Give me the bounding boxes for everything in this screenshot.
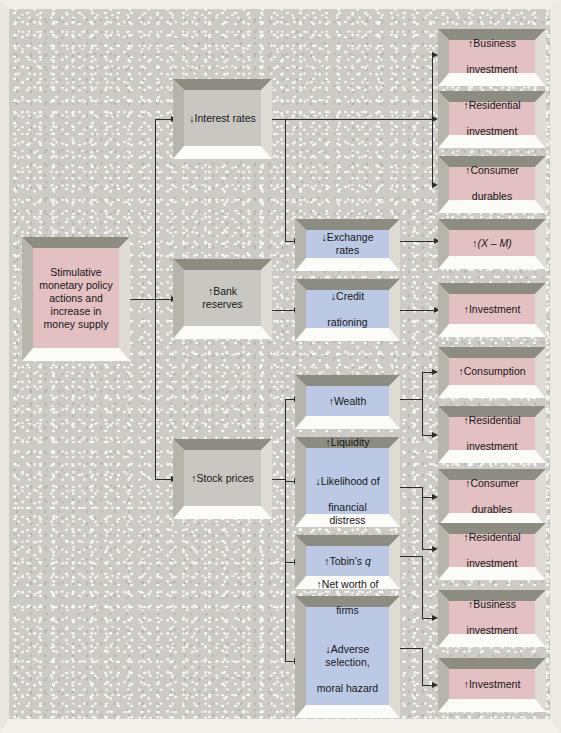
box-residential-investment-3-label: ↑Residential investment (452, 531, 532, 570)
flowchart-canvas: Stimulative monetary policy actions and … (0, 0, 561, 733)
line-2: investment (452, 63, 532, 76)
box-net-worth[interactable]: ↑Net worth of firms ↓Adverse selection, … (295, 596, 400, 718)
line-2: durables (452, 190, 532, 203)
box-investment-1[interactable]: ↑Investment (438, 283, 546, 337)
box-consumer-durables-1-label: ↑Consumer durables (452, 164, 532, 203)
box-residential-investment-1-label: ↑Residential investment (452, 99, 532, 138)
credit-rationing-line-1: ↓Credit (309, 290, 386, 303)
line-1: ↑Business (452, 598, 532, 611)
liquidity-line-3: financial distress (309, 501, 386, 527)
line-1: ↑Consumer (452, 164, 532, 177)
box-residential-investment-1[interactable]: ↑Residential investment (438, 91, 546, 148)
line-1: ↑Business (452, 37, 532, 50)
box-exchange-rates[interactable]: ↓Exchange rates (295, 219, 400, 271)
box-credit-rationing-label: ↓Credit rationing (309, 290, 386, 329)
edge-networth-vert (422, 648, 423, 685)
box-consumer-durables-2[interactable]: ↑Consumer durables (438, 469, 546, 526)
box-net-exports-label: ↑(X – M) (452, 237, 532, 250)
line-1: ↑Consumer (452, 477, 532, 490)
net-worth-line-1: ↑Net worth of (309, 578, 386, 591)
net-worth-line-3: ↓Adverse selection, (309, 643, 386, 669)
box-residential-investment-2-label: ↑Residential investment (452, 414, 532, 453)
box-business-investment-1[interactable]: ↑Business investment (438, 29, 546, 86)
liquidity-line-2: ↓Likelihood of (309, 475, 386, 488)
edge-tobinsq-vert (422, 556, 423, 619)
box-interest-rates[interactable]: ↓Interest rates (173, 79, 272, 159)
line-1: ↑Residential (452, 414, 532, 427)
box-business-investment-2[interactable]: ↑Business investment (438, 590, 546, 647)
box-net-worth-label: ↑Net worth of firms ↓Adverse selection, … (309, 578, 386, 733)
edge-stock-right (272, 479, 286, 480)
line-2: durables (452, 503, 532, 516)
net-worth-line-5: ↑Bank loans (309, 721, 386, 733)
liquidity-line-1: ↑Liquidity (309, 436, 386, 449)
box-exchange-rates-label: ↓Exchange rates (309, 231, 386, 257)
edge-exchange-netexports (400, 241, 438, 242)
box-source[interactable]: Stimulative monetary policy actions and … (22, 237, 130, 361)
edge-source-trunk (130, 299, 156, 300)
edge-tobinsq-out (400, 556, 423, 557)
box-business-investment-2-label: ↑Business investment (452, 598, 532, 637)
edge-networth-out (400, 648, 423, 649)
line-2: investment (452, 125, 532, 138)
edge-credit-investment (400, 310, 438, 311)
edge-reserves-credit (272, 310, 295, 311)
edge-wealth-vert (422, 372, 423, 436)
box-consumption[interactable]: ↑Consumption (438, 347, 546, 398)
box-investment-1-label: ↑Investment (452, 303, 532, 316)
box-liquidity[interactable]: ↑Liquidity ↓Likelihood of financial dist… (295, 437, 400, 527)
net-worth-line-2: firms (309, 604, 386, 617)
box-net-exports[interactable]: ↑(X – M) (438, 219, 546, 269)
box-business-investment-1-label: ↑Business investment (452, 37, 532, 76)
net-worth-line-4: moral hazard (309, 682, 386, 695)
box-residential-investment-2[interactable]: ↑Residential investment (438, 406, 546, 463)
box-consumer-durables-1[interactable]: ↑Consumer durables (438, 156, 546, 213)
box-tobins-q-label: ↑Tobin’s q (309, 555, 386, 568)
edge-interest-to-exchange (285, 119, 286, 241)
line-1: ↑Residential (452, 531, 532, 544)
box-investment-2[interactable]: ↑Investment (438, 658, 546, 712)
box-liquidity-label: ↑Liquidity ↓Likelihood of financial dist… (309, 436, 386, 527)
line-2: investment (452, 557, 532, 570)
line-1: ↑Residential (452, 99, 532, 112)
box-stock-prices-label: ↑Stock prices (187, 472, 258, 485)
box-bank-reserves-label: ↑Bank reserves (187, 285, 258, 311)
box-residential-investment-3[interactable]: ↑Residential investment (438, 523, 546, 580)
line-2: investment (452, 624, 532, 637)
box-wealth-label: ↑Wealth (309, 395, 386, 408)
box-credit-rationing[interactable]: ↓Credit rationing (295, 279, 400, 341)
box-consumption-label: ↑Consumption (452, 365, 532, 378)
box-wealth[interactable]: ↑Wealth (295, 375, 400, 429)
box-investment-2-label: ↑Investment (452, 678, 532, 691)
box-source-label: Stimulative monetary policy actions and … (36, 266, 116, 331)
edge-interest-right (272, 119, 433, 120)
edge-liquidity-out (400, 487, 423, 488)
box-consumer-durables-2-label: ↑Consumer durables (452, 477, 532, 516)
line-2: investment (452, 440, 532, 453)
edge-stock-vert (285, 399, 286, 661)
edge-wealth-out (400, 399, 423, 400)
box-interest-rates-label: ↓Interest rates (187, 112, 258, 125)
box-stock-prices[interactable]: ↑Stock prices (173, 439, 272, 519)
box-bank-reserves[interactable]: ↑Bank reserves (173, 259, 272, 339)
credit-rationing-line-2: rationing (309, 316, 386, 329)
